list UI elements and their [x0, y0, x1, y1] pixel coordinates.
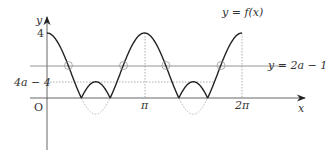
intersection-markers — [64, 62, 225, 70]
x-tick-2pi: 2π — [234, 99, 250, 112]
y-tick-4: 4 — [37, 27, 44, 40]
origin-label: O — [34, 101, 43, 114]
x-tick-pi: π — [140, 99, 149, 112]
curve-label: y = f(x) — [221, 6, 263, 19]
graph-canvas: y x O 4 4a − 4 π 2π y = f(x) y = 2a − 1 — [0, 0, 330, 159]
y-axis-label: y — [35, 14, 43, 27]
y-tick-4a-4: 4a − 4 — [13, 76, 51, 89]
line-label: y = 2a − 1 — [267, 59, 327, 72]
x-axis-label: x — [298, 102, 305, 115]
curve-f — [47, 33, 242, 98]
